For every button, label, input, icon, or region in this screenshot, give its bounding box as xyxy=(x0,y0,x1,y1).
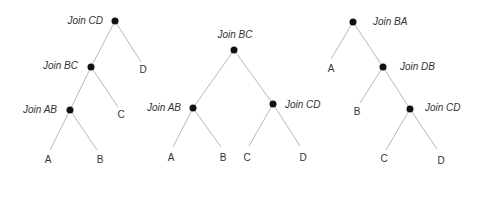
tree-bushy: Join BCJoin ABJoin CDABCD xyxy=(146,29,321,163)
tree-edge xyxy=(50,110,70,150)
join-node xyxy=(231,47,238,54)
leaf-label: B xyxy=(354,106,361,117)
tree-edge xyxy=(91,21,115,67)
tree-edge xyxy=(193,108,221,147)
join-label: Join BA xyxy=(372,16,408,27)
tree-edge xyxy=(353,22,383,67)
tree-edge xyxy=(410,109,437,149)
tree-left-deep: Join CDJoin BCJoin ABDCAB xyxy=(22,15,147,165)
leaf-label: C xyxy=(243,152,250,163)
tree-edge xyxy=(70,110,97,150)
join-label: Join DB xyxy=(399,61,435,72)
join-node xyxy=(380,64,387,71)
leaf-label: B xyxy=(97,154,104,165)
tree-edge xyxy=(91,67,118,107)
join-node xyxy=(112,18,119,25)
join-label: Join CD xyxy=(66,15,103,26)
join-node xyxy=(190,105,197,112)
join-node xyxy=(67,107,74,114)
leaf-label: D xyxy=(299,152,306,163)
leaf-label: A xyxy=(168,152,175,163)
join-label: Join BC xyxy=(42,60,79,71)
leaf-label: C xyxy=(380,153,387,164)
tree-edge xyxy=(360,67,383,103)
tree-edge xyxy=(273,104,300,146)
join-node xyxy=(88,64,95,71)
tree-edge xyxy=(331,22,353,59)
join-label: Join AB xyxy=(22,104,57,115)
tree-edge xyxy=(386,109,410,150)
tree-edge xyxy=(383,67,410,109)
join-label: Join CD xyxy=(284,99,321,110)
tree-edge xyxy=(173,108,193,147)
leaf-label: D xyxy=(139,64,146,75)
tree-edge xyxy=(249,104,273,146)
leaf-label: D xyxy=(437,155,444,166)
join-label: Join BC xyxy=(216,29,253,40)
join-trees-diagram: Join CDJoin BCJoin ABDCABJoin BCJoin ABJ… xyxy=(0,0,479,198)
join-node xyxy=(350,19,357,26)
tree-right-deep: Join BAJoin DBJoin CDABCD xyxy=(328,16,461,166)
leaf-label: C xyxy=(117,109,124,120)
tree-edge xyxy=(70,67,91,110)
join-node xyxy=(270,101,277,108)
tree-edge xyxy=(193,50,234,108)
leaf-label: A xyxy=(45,154,52,165)
tree-edge xyxy=(234,50,273,104)
diagram-svg: Join CDJoin BCJoin ABDCABJoin BCJoin ABJ… xyxy=(0,0,479,198)
join-node xyxy=(407,106,414,113)
leaf-label: B xyxy=(220,152,227,163)
join-label: Join AB xyxy=(146,102,181,113)
tree-edge xyxy=(115,21,141,62)
join-label: Join CD xyxy=(424,102,461,113)
leaf-label: A xyxy=(328,63,335,74)
